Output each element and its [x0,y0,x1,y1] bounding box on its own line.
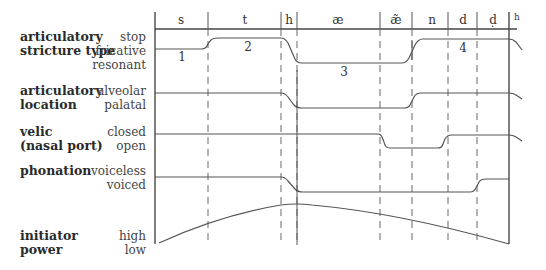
segment-d-retroflex: ḍ [489,13,497,27]
segment-d: d [459,13,467,27]
segment-h-aspiration: h [514,12,520,22]
annotation-1: 1 [178,50,186,64]
articulation-diagram: s t h æ æ̃ n d ḍ h 1 2 3 4 [0,0,546,270]
stricture-curve [155,38,522,63]
segment-h: h [285,13,293,27]
segment-ae-nasal: æ̃ [390,13,401,27]
segment-s: s [178,13,184,27]
segment-n: n [428,13,436,27]
velic-curve [155,134,522,148]
segment-ae: æ [332,13,343,27]
solid-boundaries [297,40,412,245]
segment-boundaries [208,29,477,245]
annotation-2: 2 [244,40,252,54]
annotation-4: 4 [459,41,467,55]
annotation-3: 3 [340,65,348,79]
location-curve [155,93,522,108]
initiator-power-curve [159,204,509,244]
segment-t: t [243,13,248,27]
